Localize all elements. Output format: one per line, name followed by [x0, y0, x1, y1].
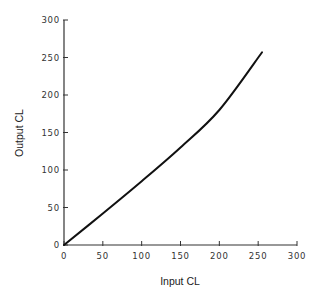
series-line	[64, 52, 262, 245]
x-tick-label: 200	[210, 251, 229, 261]
x-tick-label: 250	[249, 251, 268, 261]
y-tick-label: 100	[41, 165, 60, 175]
plot-area	[64, 52, 262, 245]
y-tick-label: 250	[41, 53, 60, 63]
x-tick-label: 50	[97, 251, 109, 261]
y-tick-label: 150	[41, 128, 60, 138]
chart: 050100150200250300050100150200250300 Inp…	[0, 0, 320, 298]
y-tick-label: 300	[41, 15, 60, 25]
x-tick-label: 100	[132, 251, 151, 261]
x-axis-title: Input CL	[160, 275, 200, 287]
y-axis-title: Output CL	[13, 109, 25, 157]
x-tick-label: 150	[171, 251, 190, 261]
y-tick-label: 50	[48, 203, 60, 213]
x-tick-label: 300	[288, 251, 307, 261]
y-tick-label: 0	[54, 240, 60, 250]
axes: 050100150200250300050100150200250300	[41, 15, 306, 261]
y-tick-label: 200	[41, 90, 60, 100]
x-tick-label: 0	[61, 251, 67, 261]
